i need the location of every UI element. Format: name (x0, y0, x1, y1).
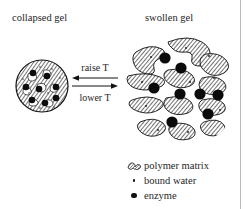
collapsed-gel-diagram (14, 58, 70, 114)
gel-transition-figure: collapsed gel swollen gel (0, 0, 245, 209)
bound-water-dot-icon (124, 179, 144, 182)
arrow-right-icon (72, 82, 118, 90)
raise-temperature-label: raise T (70, 62, 120, 73)
swollen-gel-title: swollen gel (145, 12, 193, 24)
swollen-gel-fragments (127, 38, 229, 140)
legend-label-polymer-matrix: polymer matrix (144, 160, 209, 172)
swollen-gel-diagram (118, 26, 242, 150)
legend: polymer matrix bound water enzyme (124, 158, 236, 203)
collapsed-gel-title: collapsed gel (12, 12, 67, 24)
legend-item-bound-water: bound water (124, 173, 236, 188)
lower-temperature-label: lower T (70, 92, 120, 103)
transition-arrows: raise T lower T (70, 62, 120, 104)
polymer-matrix-icon (124, 161, 144, 170)
arrow-left-icon (72, 74, 118, 82)
legend-label-bound-water: bound water (144, 175, 196, 187)
collapsed-gel-body (16, 60, 68, 112)
legend-item-polymer-matrix: polymer matrix (124, 158, 236, 173)
legend-item-enzyme: enzyme (124, 188, 236, 203)
enzyme-dot-icon (124, 193, 144, 199)
legend-label-enzyme: enzyme (144, 190, 177, 202)
